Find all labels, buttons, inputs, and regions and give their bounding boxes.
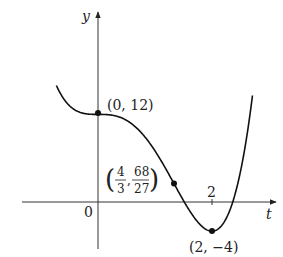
plot-svg: y t 0 2 (0, 12) (2, −4) ( 4 3 , 68 27 ) <box>0 0 283 257</box>
function-graph: y t 0 2 (0, 12) (2, −4) ( 4 3 , 68 27 ) <box>0 0 283 257</box>
t-axis-label: t <box>266 206 272 222</box>
point-0-12 <box>95 110 101 116</box>
svg-text:68: 68 <box>134 165 149 179</box>
point-label-inflection: ( 4 3 , 68 27 ) <box>105 164 159 196</box>
point-inflection <box>171 181 177 187</box>
svg-text:): ) <box>149 164 159 194</box>
y-axis-label: y <box>81 8 91 24</box>
svg-text:4: 4 <box>117 165 125 179</box>
origin-label: 0 <box>84 204 93 220</box>
svg-text:,: , <box>127 173 131 187</box>
svg-text:(: ( <box>105 164 115 194</box>
point-2-neg4 <box>209 228 215 234</box>
svg-text:3: 3 <box>117 182 125 196</box>
point-label-0-12: (0, 12) <box>107 97 154 113</box>
tick-label-2: 2 <box>207 184 216 200</box>
svg-text:27: 27 <box>134 182 149 196</box>
point-label-2-neg4: (2, −4) <box>189 239 238 255</box>
